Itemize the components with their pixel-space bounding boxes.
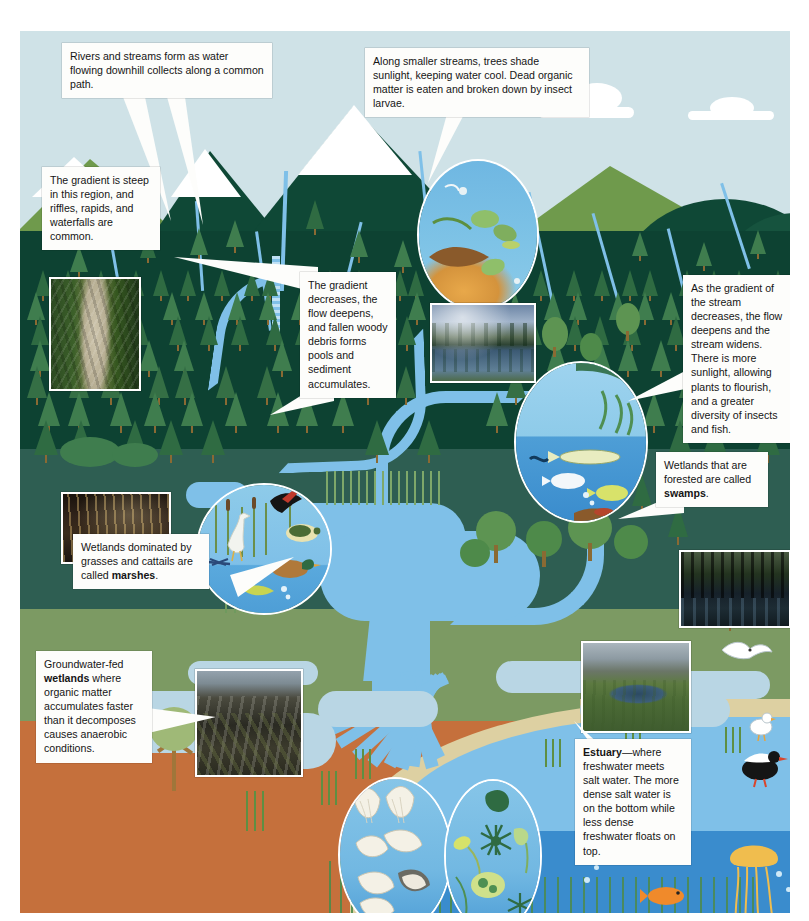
callout-groundwater-lead: Groundwater-fed	[44, 658, 124, 670]
conifer-tree	[750, 227, 766, 259]
callout-tail-steep-gradient	[170, 227, 320, 297]
marsh-grass	[350, 749, 372, 779]
wetland-pond	[318, 691, 438, 727]
callout-groundwater-rest: where organic matter accumulates faster …	[44, 672, 136, 754]
callout-swamps-term: swamps	[664, 487, 706, 499]
conifer-tree	[395, 363, 417, 405]
callout-marshes-period: .	[155, 569, 158, 581]
marsh-grass	[540, 739, 562, 767]
conifer-tree	[632, 229, 648, 261]
callout-estuary-term: Estuary	[583, 746, 622, 758]
bubble	[584, 877, 590, 883]
callout-tail-marshes	[228, 555, 298, 605]
conifer-tree	[159, 417, 183, 463]
photo-waterfall-rapids	[49, 277, 141, 391]
callout-swamps: Wetlands that are forested are called sw…	[656, 452, 768, 507]
swamp-tree	[460, 539, 490, 567]
shrub	[60, 437, 120, 467]
callout-marshes-term: marshes	[112, 569, 156, 581]
swamp-tree-trunk	[542, 551, 546, 567]
marsh-grass	[316, 771, 338, 805]
callout-stream-widens: As the gradient of the stream decreases,…	[683, 275, 790, 443]
callout-swamps-text: Wetlands that are forested are called	[664, 459, 751, 485]
conifer-tree	[486, 389, 509, 433]
gull-flying-icon	[720, 636, 774, 666]
magnifier-shellfish	[338, 777, 452, 913]
callout-gradient-decreases: The gradient decreases, the flow deepens…	[300, 272, 396, 398]
figure-root: Rivers and streams form as water flowing…	[0, 0, 809, 921]
oystercatcher-icon	[730, 741, 790, 789]
plankton-icon	[446, 781, 540, 913]
callout-groundwater-wetlands: Groundwater-fed wetlands where organic m…	[36, 651, 152, 763]
bubble	[786, 887, 790, 892]
shellfish-icon	[340, 779, 450, 913]
conifer-tree	[230, 313, 250, 351]
magnifier-plankton	[444, 779, 542, 913]
photo-slow-forest-river	[430, 303, 536, 383]
conifer-tree	[350, 227, 368, 263]
swamp-tree-trunk	[588, 543, 592, 561]
cloud	[688, 111, 774, 120]
bubble	[776, 871, 782, 877]
callout-swamps-period: .	[706, 487, 709, 499]
orange-fish-icon	[640, 883, 694, 909]
callout-marshes: Wetlands dominated by grasses and cattai…	[73, 534, 209, 589]
conifer-tree	[417, 417, 441, 463]
conifer-tree	[224, 389, 247, 433]
gull-standing-icon	[746, 709, 776, 743]
cattail-cluster	[320, 471, 440, 505]
photo-forested-swamp	[679, 550, 790, 628]
callout-steep-gradient: The gradient is steep in this region, an…	[42, 167, 160, 250]
callout-headwaters: Rivers and streams form as water flowing…	[62, 43, 272, 98]
marsh-grass	[240, 791, 270, 831]
deciduous-tree	[542, 317, 568, 351]
conifer-tree	[397, 313, 417, 351]
deciduous-tree-trunk	[626, 331, 629, 341]
conifer-tree	[34, 417, 58, 463]
callout-estuary: Estuary—where freshwater meets salt wate…	[575, 739, 691, 865]
illustration-scene: Rivers and streams form as water flowing…	[20, 31, 790, 913]
callout-stream-shading: Along smaller streams, trees shade sunli…	[365, 48, 589, 117]
callout-estuary-rest: —where freshwater meets salt water. The …	[583, 746, 679, 857]
bubble	[594, 865, 599, 870]
swamp-tree-trunk	[494, 545, 498, 563]
callout-groundwater-term: wetlands	[44, 672, 89, 684]
conifer-tree	[199, 313, 219, 351]
conifer-tree	[201, 417, 225, 463]
deciduous-tree-trunk	[553, 347, 556, 357]
conifer-tree	[365, 417, 389, 463]
shrub	[112, 443, 158, 467]
deciduous-tree	[580, 333, 602, 361]
